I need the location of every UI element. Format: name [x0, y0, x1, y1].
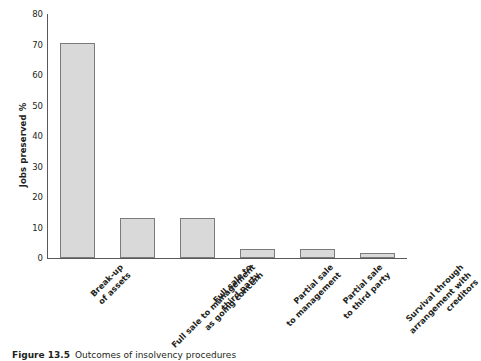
y-tick-label: 60 [32, 71, 43, 80]
y-axis-title: Jobs preserved % [18, 70, 28, 220]
plot-area: 01020304050607080 [47, 14, 407, 259]
y-tick-label: 80 [32, 10, 43, 19]
bar [240, 249, 275, 258]
x-tick-label: Partial saleto third party [334, 262, 393, 321]
x-tick-label: Survival througharrangement withcreditor… [399, 262, 480, 343]
y-tick-label: 30 [32, 162, 43, 171]
bar [120, 218, 155, 258]
x-axis-tick-labels: Break-upof assetsFull sale to management… [47, 262, 416, 342]
bar [180, 218, 215, 258]
x-tick-label: Partial saleto management [277, 262, 344, 329]
bar [300, 249, 335, 258]
y-tick-label: 50 [32, 101, 43, 110]
y-tick-label: 70 [32, 40, 43, 49]
bar [360, 253, 395, 258]
x-tick-label: Break-upof assets [88, 262, 132, 306]
caption-text: Outcomes of insolvency procedures [75, 350, 236, 360]
bar [60, 43, 95, 258]
y-tick-label: 0 [38, 254, 43, 263]
bar-series [48, 14, 407, 258]
y-tick-label: 40 [32, 132, 43, 141]
y-tick-label: 20 [32, 193, 43, 202]
figure-caption: Figure 13.5Outcomes of insolvency proced… [12, 350, 412, 361]
caption-number: Figure 13.5 [12, 350, 70, 360]
y-tick-label: 10 [32, 223, 43, 232]
x-axis-line [47, 258, 407, 259]
